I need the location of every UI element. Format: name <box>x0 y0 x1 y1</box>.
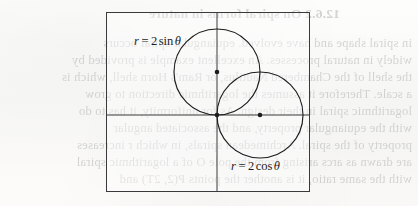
label-cos-angle: θ <box>272 159 280 173</box>
point-center-sin-circle <box>215 70 220 75</box>
label-sin-equals: = <box>139 34 151 48</box>
point-origin <box>215 113 220 118</box>
label-cos-equals: = <box>236 159 248 173</box>
label-r-equals-2-cos-theta: r=2cosθ <box>231 160 280 173</box>
label-cos-function: cos <box>254 159 272 173</box>
label-sin-angle: θ <box>173 34 181 48</box>
point-center-cos-circle <box>258 113 263 118</box>
label-sin-function: sin <box>157 34 173 48</box>
scanned-page: 12.6.2 On spiral forms in nature in spir… <box>0 0 418 206</box>
label-r-equals-2-sin-theta: r=2sinθ <box>134 35 181 48</box>
